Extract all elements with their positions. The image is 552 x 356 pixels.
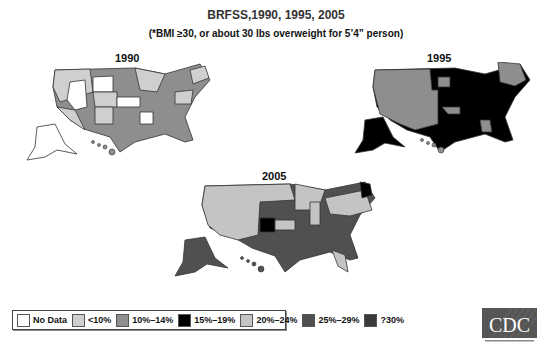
legend-swatch (364, 314, 377, 327)
map-1990 (15, 62, 215, 177)
legend: No Data <10% 10%–14% 15%–19% 20%–24% 25%… (12, 310, 286, 330)
legend-item-no-data: No Data (17, 314, 67, 327)
map-1995 (320, 62, 540, 177)
legend-item-lt10: <10% (72, 314, 111, 327)
legend-swatch (302, 314, 315, 327)
legend-swatch (72, 314, 85, 327)
legend-label: No Data (33, 315, 67, 325)
cdc-logo: CDC (482, 308, 537, 344)
legend-swatch (240, 314, 253, 327)
legend-label: ?30% (380, 315, 404, 325)
legend-item-30plus: ?30% (364, 314, 404, 327)
legend-label: 25%–29% (318, 315, 359, 325)
legend-label: 15%–19% (194, 315, 235, 325)
legend-item-25-29: 25%–29% (302, 314, 359, 327)
legend-item-20-24: 20%–24% (240, 314, 297, 327)
svg-text:CDC: CDC (489, 314, 530, 336)
legend-label: 10%–14% (132, 315, 173, 325)
legend-swatch (116, 314, 129, 327)
legend-label: <10% (88, 315, 111, 325)
legend-swatch (17, 314, 30, 327)
chart-subtitle: (*BMI ≥30, or about 30 lbs overweight fo… (0, 28, 552, 39)
chart-title: BRFSS,1990, 1995, 2005 (0, 8, 552, 22)
map-2005 (160, 180, 410, 290)
legend-item-15-19: 15%–19% (178, 314, 235, 327)
legend-swatch (178, 314, 191, 327)
legend-label: 20%–24% (256, 315, 297, 325)
legend-item-10-14: 10%–14% (116, 314, 173, 327)
